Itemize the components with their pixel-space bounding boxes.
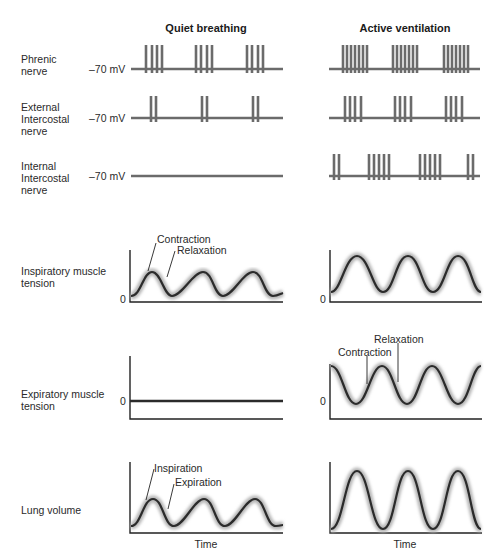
svg-text:Inspiratory muscle: Inspiratory muscle: [21, 265, 106, 277]
halo-curve: [331, 366, 481, 404]
phrenic-active-spikes: [343, 45, 468, 73]
halo-curve: [331, 471, 481, 529]
svg-text:Intercostal: Intercostal: [21, 172, 69, 184]
tension-curve: [331, 366, 481, 404]
svg-text:Internal: Internal: [21, 160, 56, 172]
respiratory-diagram: Quiet breathing Active ventilation Phren…: [0, 0, 501, 558]
axes: [130, 356, 283, 419]
zero-label: 0: [120, 395, 126, 407]
label-expiratory-muscle-tension: Expiratory muscle tension: [21, 388, 105, 412]
title-active-ventilation: Active ventilation: [359, 22, 450, 34]
axes: [330, 364, 482, 419]
inspiratory-quiet-chart: 0 Contraction Relaxation: [120, 233, 283, 305]
svg-text:nerve: nerve: [21, 184, 47, 196]
lung-volume-active-chart: Time: [330, 462, 482, 550]
voltage-label: –70 mV: [89, 112, 125, 124]
nerve-traces: [131, 45, 480, 180]
svg-text:nerve: nerve: [21, 125, 47, 137]
label-external-intercostal-nerve: External Intercostal nerve: [21, 101, 69, 137]
zero-label: 0: [320, 293, 326, 305]
title-quiet-breathing: Quiet breathing: [165, 22, 246, 34]
voltage-label: –70 mV: [89, 170, 125, 182]
contraction-annotation: Contraction: [338, 346, 392, 358]
zero-label: 0: [120, 293, 126, 305]
svg-text:nerve: nerve: [21, 65, 47, 77]
x-axis-label-time: Time: [394, 538, 417, 550]
svg-text:Phrenic: Phrenic: [21, 53, 57, 65]
lung-volume-quiet-chart: Inspiration Expiration Time: [130, 462, 283, 550]
x-axis-label-time: Time: [195, 538, 218, 550]
zero-label: 0: [320, 395, 326, 407]
label-internal-intercostal-nerve: Internal Intercostal nerve: [21, 160, 69, 196]
voltage-label: –70 mV: [89, 63, 125, 75]
expiration-annotation: Expiration: [175, 476, 222, 488]
label-phrenic-nerve: Phrenic nerve: [21, 53, 57, 77]
expiratory-active-chart: 0 Contraction Relaxation: [320, 333, 482, 419]
svg-text:Lung volume: Lung volume: [21, 504, 81, 516]
inspiratory-active-chart: 0: [320, 250, 482, 305]
label-inspiratory-muscle-tension: Inspiratory muscle tension: [21, 265, 106, 289]
relaxation-annotation: Relaxation: [374, 333, 424, 345]
halo-curve: [331, 256, 481, 292]
label-lung-volume: Lung volume: [21, 504, 81, 516]
svg-text:tension: tension: [21, 277, 55, 289]
inspiration-annotation: Inspiration: [154, 462, 203, 474]
relaxation-annotation: Relaxation: [177, 244, 227, 256]
svg-text:tension: tension: [21, 400, 55, 412]
expiratory-quiet-chart: 0: [120, 356, 283, 419]
svg-text:External: External: [21, 101, 60, 113]
svg-text:Expiratory muscle: Expiratory muscle: [21, 388, 105, 400]
svg-text:Intercostal: Intercostal: [21, 113, 69, 125]
